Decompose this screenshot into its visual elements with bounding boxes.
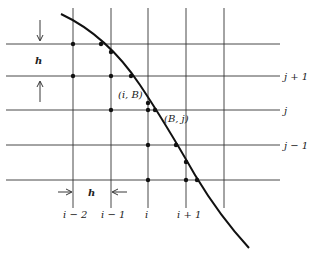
horizontal-spacing-indicator: h — [58, 187, 127, 198]
boundary-curve — [61, 14, 249, 248]
boundary-point — [195, 178, 199, 182]
column-labels: i − 2 i − 1 i i + 1 — [63, 209, 201, 220]
column-label-i-minus-1: i − 1 — [101, 209, 125, 220]
row-label-j-minus-1: j − 1 — [282, 140, 308, 151]
grid-node — [184, 178, 188, 182]
point-label-i-B: (i, B) — [118, 89, 143, 100]
point-label-B-j: (B, j) — [164, 113, 189, 124]
grid-node — [146, 178, 150, 182]
boundary-point — [184, 160, 188, 164]
vertical-spacing-indicator: h — [35, 20, 43, 102]
row-label-j-plus-1: j + 1 — [282, 71, 308, 82]
boundary-point-i-B — [129, 74, 133, 78]
grid-node — [71, 42, 75, 46]
column-label-i-plus-1: i + 1 — [177, 209, 201, 220]
grid-node — [71, 74, 75, 78]
horizontal-grid-lines — [6, 44, 280, 180]
row-label-j: j — [282, 105, 287, 116]
grid-node-dots — [71, 42, 188, 182]
boundary-point-B-j — [153, 108, 157, 112]
finite-difference-grid-diagram: h h i − 2 i − 1 i i + 1 j + 1 j j − 1 (i… — [0, 0, 312, 256]
grid-node — [146, 143, 150, 147]
boundary-intersection-dots — [99, 42, 199, 182]
vertical-h-label: h — [35, 55, 42, 66]
boundary-point — [99, 42, 103, 46]
boundary-point — [109, 50, 113, 54]
boundary-point — [174, 143, 178, 147]
grid-node — [146, 108, 150, 112]
boundary-point — [146, 101, 150, 105]
column-label-i: i — [145, 209, 148, 220]
column-label-i-minus-2: i − 2 — [63, 209, 87, 220]
grid-node — [109, 108, 113, 112]
grid-node — [109, 74, 113, 78]
horizontal-h-label: h — [88, 187, 95, 198]
row-labels: j + 1 j j − 1 — [282, 71, 308, 151]
